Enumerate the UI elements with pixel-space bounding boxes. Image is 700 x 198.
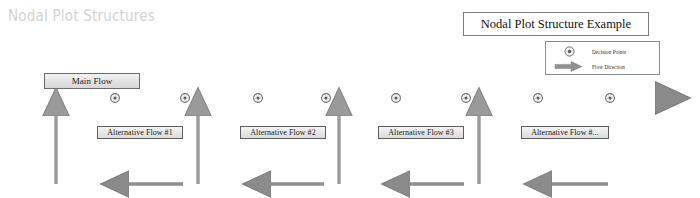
decision-node-icon [322, 94, 331, 103]
alt-flow-label-box-4: Alternative Flow #... [521, 126, 609, 139]
decision-node-icon [111, 94, 120, 103]
legend-label-decision-points: Decision Points [592, 49, 626, 55]
decision-node-icon [181, 94, 190, 103]
decision-node-icon [534, 94, 543, 103]
legend-label-flow-direction: Flow Direction [592, 64, 625, 70]
screenshot-canvas: Nodal Plot Structures [0, 0, 700, 198]
legend-row-flow-direction: Flow Direction [546, 59, 659, 74]
alt-flow-label-box-2: Alternative Flow #2 [240, 126, 326, 139]
main-flow-label-box: Main Flow [44, 73, 140, 89]
legend-title-box: Nodal Plot Structure Example [463, 12, 649, 36]
flow-arrow-icon [546, 61, 592, 72]
decision-node-icon [462, 94, 471, 103]
alt-flow-label-box-1: Alternative Flow #1 [97, 126, 183, 139]
legend-box: Decision Points Flow Direction [545, 41, 660, 75]
alt-flow-loop-2 [198, 98, 326, 184]
decision-node-icon [546, 45, 592, 58]
alt-flow-label-box-3: Alternative Flow #3 [378, 126, 464, 139]
alt-flow-loop-3 [339, 98, 466, 184]
legend-row-decision-points: Decision Points [546, 44, 659, 59]
decision-node-icon [254, 94, 263, 103]
decision-node-icon [392, 94, 401, 103]
alt-flow-loop-4 [479, 98, 610, 184]
decision-node-icon [606, 94, 615, 103]
alt-flow-loop-1 [56, 98, 185, 184]
